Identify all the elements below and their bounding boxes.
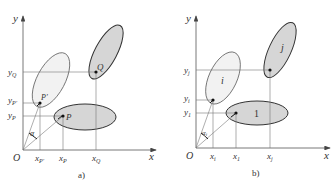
x-tick-xp-prime: xP′	[34, 153, 45, 164]
caption-a: a)	[78, 170, 85, 180]
y-tick-yj: yj	[183, 65, 190, 76]
x-tick-x1: x1	[232, 151, 240, 162]
ellipse-q	[82, 20, 130, 83]
x-tick-xj: xj	[266, 151, 273, 162]
point-1	[234, 111, 237, 114]
origin-label: O	[13, 152, 20, 163]
x-axis-label: x	[323, 149, 329, 161]
point-i	[211, 98, 214, 101]
y-tick-yi: yi	[183, 93, 190, 104]
x-tick-xq: xQ	[91, 153, 101, 164]
y-axis-label: y	[185, 12, 191, 24]
diagram-canvas: y x O α Q P′ P yQ yP′ yP xP′ xP xQ a)	[0, 0, 335, 187]
point-p	[61, 114, 64, 117]
y-tick-yp-prime: yP′	[7, 95, 18, 106]
origin-label: O	[186, 150, 193, 161]
panel-b: y x O αi i j 1 yj yi y1 xi x1 xj b)	[183, 12, 330, 178]
panel-a: y x O α Q P′ P yQ yP′ yP xP′ xP xQ a)	[7, 12, 156, 180]
x-axis-label: x	[148, 150, 154, 162]
region-i-label: i	[221, 75, 224, 86]
y-tick-yq: yQ	[7, 67, 17, 78]
point-p-label: P	[65, 112, 72, 122]
angle-label: αi	[202, 129, 208, 137]
y-tick-yp: yP	[7, 110, 16, 121]
x-tick-xi: xi	[209, 151, 216, 162]
y-tick-y1: y1	[183, 107, 191, 118]
point-q-label: Q	[97, 62, 104, 72]
caption-b: b)	[252, 168, 260, 178]
ellipse-j	[257, 18, 302, 82]
point-p-prime-label: P′	[40, 93, 48, 102]
y-axis-label: y	[12, 12, 18, 24]
point-j	[268, 68, 271, 71]
region-1-label: 1	[254, 108, 259, 119]
x-tick-xp: xP	[58, 153, 67, 164]
